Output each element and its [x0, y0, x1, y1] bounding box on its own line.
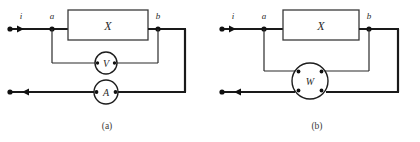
wattmeter-terminal-top-left — [297, 70, 301, 74]
panel-b: X — [219, 10, 399, 132]
current-label-a: i — [20, 11, 23, 21]
ammeter-label: A — [102, 87, 110, 98]
current-arrow-bottom-a — [22, 89, 29, 96]
dut-label-b: X — [316, 19, 325, 33]
panel-a: X V — [7, 10, 186, 132]
dut-label-a: X — [103, 19, 112, 33]
wattmeter: W — [292, 63, 328, 99]
node-label-a-left: a — [50, 11, 55, 21]
caption-panel-a: (a) — [102, 121, 113, 132]
voltmeter-terminal-left — [96, 61, 99, 64]
ammeter-terminal-left — [95, 90, 99, 94]
node-label-b-right: b — [367, 11, 372, 21]
figure-canvas: X V — [0, 0, 420, 142]
current-arrow-bottom-b — [234, 89, 241, 96]
panel-a-top-line — [7, 26, 68, 33]
node-label-b-left: a — [262, 11, 267, 21]
terminal-dot-top-left-a — [7, 26, 12, 31]
dut-box-a: X — [68, 10, 148, 40]
panel-a-right-rail — [118, 26, 186, 92]
voltmeter-terminal-right — [113, 61, 116, 64]
terminal-dot-bottom-left-b — [219, 89, 224, 94]
caption-panel-b: (b) — [311, 121, 322, 132]
current-arrow-top-b — [229, 26, 236, 33]
panel-b-bottom-line — [219, 89, 295, 96]
circuit-diagram-svg: X V — [0, 0, 420, 142]
terminal-dot-bottom-left-a — [7, 89, 12, 94]
wattmeter-terminal-bottom-left — [297, 89, 301, 93]
current-label-b: i — [232, 11, 235, 21]
panel-a-bottom-line: A — [7, 80, 118, 104]
current-arrow-top-a — [17, 26, 24, 33]
terminal-dot-top-left-b — [219, 26, 224, 31]
node-label-a-right: b — [156, 11, 161, 21]
ammeter-terminal-right — [114, 90, 118, 94]
wattmeter-terminal-top-right — [320, 70, 324, 74]
panel-b-right-rail — [326, 26, 399, 92]
panel-b-top-line — [219, 26, 283, 33]
dut-box-b: X — [283, 10, 359, 40]
wattmeter-terminal-bottom-right — [320, 89, 324, 93]
